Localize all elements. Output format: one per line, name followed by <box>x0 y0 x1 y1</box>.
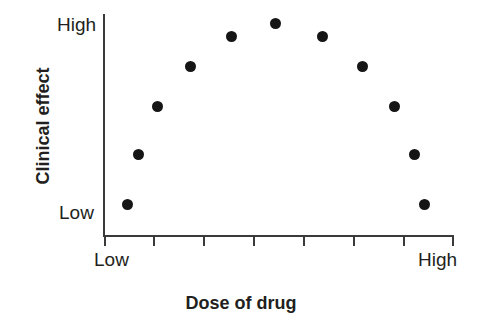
data-point <box>317 31 328 42</box>
data-point <box>185 61 196 72</box>
data-point <box>389 101 400 112</box>
dose-response-chart: High Low Low High Clinical effect Dose o… <box>0 0 482 327</box>
data-point <box>152 101 163 112</box>
data-point <box>122 199 133 210</box>
data-point <box>133 149 144 160</box>
data-point <box>226 31 237 42</box>
data-point <box>419 199 430 210</box>
data-point <box>270 18 281 29</box>
scatter-series-clinical-effect <box>0 0 482 327</box>
data-point <box>357 61 368 72</box>
data-point <box>409 149 420 160</box>
